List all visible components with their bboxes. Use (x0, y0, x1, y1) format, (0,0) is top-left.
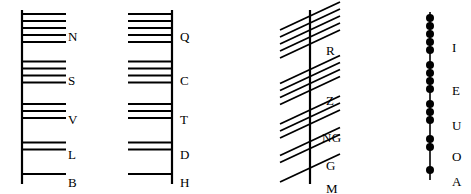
ogham-notch-dot (426, 143, 434, 151)
ogham-notch-dot (426, 108, 434, 116)
ogham-alphabet-diagram: NSVLB QCTDH RZNGGM IEUOA (0, 0, 471, 194)
ogham-notch-dot (426, 166, 434, 174)
ogham-letter-label-a: A (452, 175, 462, 188)
ogham-notch-dot (426, 61, 434, 69)
ogham-notch-dot (426, 30, 434, 38)
ogham-letter-label-u: U (452, 119, 462, 132)
ogham-notch-dot (426, 100, 434, 108)
ogham-notch-dot (426, 116, 434, 124)
ogham-letter-label-e: E (452, 84, 460, 97)
ogham-notch-dot (426, 38, 434, 46)
ogham-notch-dot (426, 69, 434, 77)
ogham-notch-dot (426, 135, 434, 143)
ogham-notch-dot (426, 22, 434, 30)
ogham-notch-dot (426, 46, 434, 54)
ogham-letter-label-i: I (452, 41, 457, 54)
ogham-notch-dot (426, 77, 434, 85)
ogham-letter-label-o: O (452, 150, 462, 163)
ogham-notch-dot (426, 14, 434, 22)
ogham-notch-dot (426, 85, 434, 93)
